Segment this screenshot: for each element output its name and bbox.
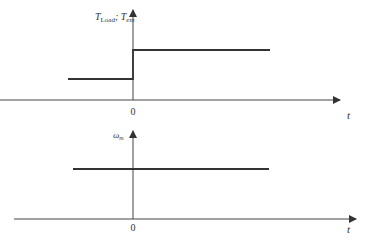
torque-step-signal bbox=[68, 50, 270, 79]
bottom-time-label: t bbox=[347, 223, 351, 235]
diagram-canvas: 0 t TLoad; Tem 0 t ωm bbox=[0, 0, 365, 241]
top-origin-label: 0 bbox=[131, 106, 136, 117]
speed-axis-label: ωm bbox=[113, 130, 124, 141]
torque-axis-label: TLoad; Tem bbox=[95, 11, 135, 24]
bottom-plot: 0 t ωm bbox=[14, 130, 356, 235]
top-plot: 0 t TLoad; Tem bbox=[0, 10, 351, 121]
bottom-origin-label: 0 bbox=[131, 222, 136, 233]
top-time-label: t bbox=[347, 109, 351, 121]
